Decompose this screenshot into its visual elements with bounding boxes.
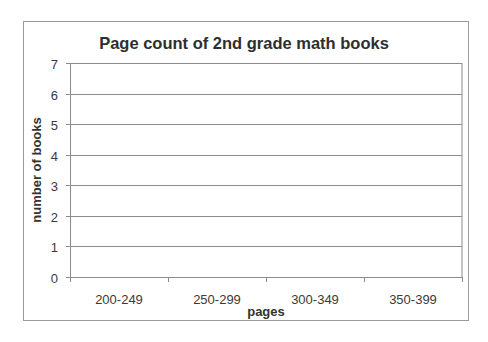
- gridlines: [66, 63, 462, 281]
- y-tick-label: 2: [51, 210, 58, 225]
- y-tick-label: 1: [51, 240, 58, 255]
- y-tick-label: 6: [51, 88, 58, 103]
- x-tick-label: 350-399: [389, 292, 437, 307]
- x-axis-title: pages: [247, 304, 285, 319]
- y-axis-ticks: 01234567: [51, 57, 58, 286]
- x-axis-ticks: 200-249250-299300-349350-399: [71, 277, 463, 307]
- x-tick-label: 200-249: [95, 292, 143, 307]
- x-tick-label: 300-349: [291, 292, 339, 307]
- plot-area: 01234567 200-249250-299300-349350-399 pa…: [0, 0, 488, 342]
- y-tick-label: 0: [51, 271, 58, 286]
- y-tick-label: 4: [51, 149, 58, 164]
- y-axis-title: number of books: [29, 117, 44, 222]
- x-tick-label: 250-299: [193, 292, 241, 307]
- y-tick-label: 5: [51, 118, 58, 133]
- y-tick-label: 7: [51, 57, 58, 72]
- y-tick-label: 3: [51, 179, 58, 194]
